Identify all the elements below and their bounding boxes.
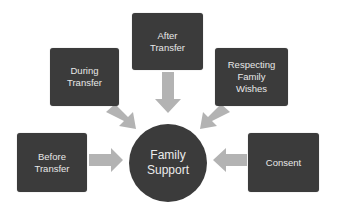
node-respecting-family-wishes: Respecting Family Wishes [215,48,288,106]
node-during-transfer: During Transfer [50,48,119,106]
node-label: During Transfer [67,65,102,89]
hub-label: Family Support [147,148,189,178]
arrow-after-to-hub [155,72,181,113]
node-label: Consent [266,157,301,169]
family-support-diagram: After Transfer During Transfer Respectin… [0,0,337,213]
hub-family-support: Family Support [129,124,207,202]
arrow-consent-to-hub [213,148,247,172]
node-before-transfer: Before Transfer [17,133,87,192]
node-label: Respecting Family Wishes [228,59,276,95]
node-label: Before Transfer [34,151,69,175]
arrow-respecting-to-hub [200,104,230,129]
node-label: After Transfer [150,30,185,54]
arrow-before-to-hub [89,148,123,172]
node-after-transfer: After Transfer [132,13,203,70]
node-consent: Consent [248,133,319,192]
arrow-during-to-hub [106,104,136,129]
